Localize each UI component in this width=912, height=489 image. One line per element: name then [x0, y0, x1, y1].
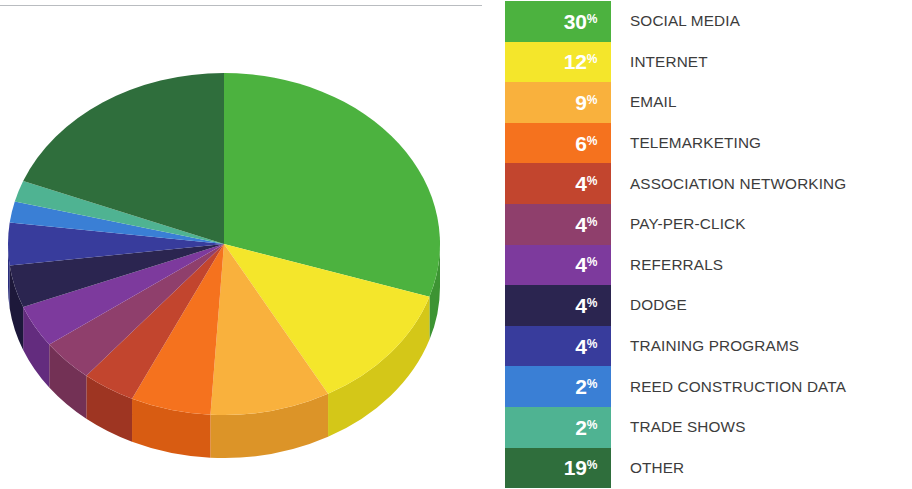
legend-row[interactable]: 4%DODGE: [505, 285, 912, 326]
legend-percent-value: 2%: [575, 376, 597, 397]
legend-row[interactable]: 4%ASSOCIATION NETWORKING: [505, 163, 912, 204]
legend-category-label: TELEMARKETING: [611, 123, 912, 164]
legend-row[interactable]: 2%TRADE SHOWS: [505, 407, 912, 448]
legend-percent-symbol: %: [587, 52, 597, 66]
legend-color-swatch: 19%: [505, 448, 611, 489]
legend-percent-value: 9%: [575, 92, 597, 113]
legend-color-swatch: 2%: [505, 407, 611, 448]
legend-percent-symbol: %: [587, 296, 597, 310]
legend-row[interactable]: 9%EMAIL: [505, 82, 912, 123]
legend-row[interactable]: 2%REED CONSTRUCTION DATA: [505, 366, 912, 407]
legend-row[interactable]: 4%PAY-PER-CLICK: [505, 204, 912, 245]
legend-row[interactable]: 30%SOCIAL MEDIA: [505, 1, 912, 42]
legend-percent-symbol: %: [587, 255, 597, 269]
legend-percent-symbol: %: [587, 12, 597, 26]
legend-category-label: ASSOCIATION NETWORKING: [611, 163, 912, 204]
legend-category-label: REED CONSTRUCTION DATA: [611, 366, 912, 407]
legend-percent-value: 2%: [575, 417, 597, 438]
legend-percent-value: 30%: [564, 11, 597, 32]
legend-color-swatch: 30%: [505, 1, 611, 42]
legend-category-label: PAY-PER-CLICK: [611, 204, 912, 245]
legend-percent-value: 4%: [575, 214, 597, 235]
legend-category-label: TRAINING PROGRAMS: [611, 326, 912, 367]
legend-color-swatch: 4%: [505, 285, 611, 326]
legend-percent-value: 4%: [575, 336, 597, 357]
legend-category-label: INTERNET: [611, 42, 912, 83]
legend-row[interactable]: 12%INTERNET: [505, 42, 912, 83]
legend-percent-symbol: %: [587, 174, 597, 188]
pie-top-faces: [8, 73, 440, 415]
legend-percent-symbol: %: [587, 215, 597, 229]
legend-category-label: OTHER: [611, 448, 912, 489]
legend-percent-symbol: %: [587, 134, 597, 148]
legend-row[interactable]: 6%TELEMARKETING: [505, 123, 912, 164]
legend-category-label: SOCIAL MEDIA: [611, 1, 912, 42]
legend-row[interactable]: 4%REFERRALS: [505, 245, 912, 286]
legend-color-swatch: 4%: [505, 326, 611, 367]
legend-color-swatch: 4%: [505, 245, 611, 286]
legend-percent-value: 4%: [575, 295, 597, 316]
legend-percent-symbol: %: [587, 418, 597, 432]
legend-percent-symbol: %: [587, 337, 597, 351]
legend-color-swatch: 6%: [505, 123, 611, 164]
legend-percent-value: 19%: [564, 457, 597, 478]
legend-percent-value: 6%: [575, 133, 597, 154]
legend-color-swatch: 12%: [505, 42, 611, 83]
legend-color-swatch: 4%: [505, 204, 611, 245]
legend-color-swatch: 4%: [505, 163, 611, 204]
legend-color-swatch: 9%: [505, 82, 611, 123]
legend-row[interactable]: 19%OTHER: [505, 448, 912, 489]
legend-row[interactable]: 4%TRAINING PROGRAMS: [505, 326, 912, 367]
header-divider-rule: [0, 5, 482, 6]
legend-category-label: REFERRALS: [611, 245, 912, 286]
legend-percent-value: 4%: [575, 254, 597, 275]
legend-category-label: TRADE SHOWS: [611, 407, 912, 448]
legend-percent-symbol: %: [587, 458, 597, 472]
pie-chart-svg: [0, 48, 490, 478]
chart-legend: 30%SOCIAL MEDIA12%INTERNET9%EMAIL6%TELEM…: [505, 1, 912, 489]
legend-percent-value: 12%: [564, 51, 597, 72]
legend-percent-symbol: %: [587, 93, 597, 107]
legend-color-swatch: 2%: [505, 366, 611, 407]
pie-chart: [0, 48, 490, 478]
legend-category-label: EMAIL: [611, 82, 912, 123]
legend-percent-symbol: %: [587, 377, 597, 391]
legend-percent-value: 4%: [575, 173, 597, 194]
legend-category-label: DODGE: [611, 285, 912, 326]
